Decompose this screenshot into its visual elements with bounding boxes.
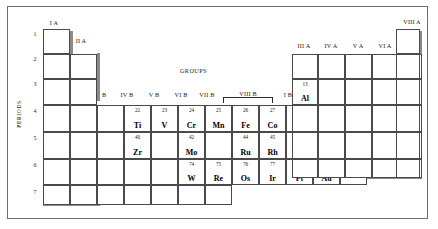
table-cell-ivb-p6[interactable] bbox=[124, 159, 151, 185]
table-cell-ivb-p7[interactable] bbox=[124, 185, 151, 205]
table-cell-iiia-p2[interactable] bbox=[292, 54, 318, 79]
table-cell-ivb-p5[interactable]: 40 Zr bbox=[124, 132, 151, 159]
element-symbol: Ir bbox=[260, 174, 285, 183]
table-cell-iiia-p6[interactable] bbox=[292, 159, 318, 178]
group-label-ia: I A bbox=[41, 19, 67, 26]
table-cell-vib-p6[interactable]: 74 W bbox=[178, 159, 205, 185]
table-cell-viib-p7[interactable] bbox=[205, 185, 232, 205]
group-label-va: V A bbox=[345, 42, 371, 49]
table-cell-viiia-p4[interactable] bbox=[396, 105, 420, 132]
periodic-table-stage: PERIODS GROUPS 1 2 3 4 5 6 7 I A II A II… bbox=[8, 7, 429, 220]
table-cell-iva-p2[interactable] bbox=[318, 54, 345, 79]
viiib-bracket-top bbox=[223, 97, 273, 98]
table-cell-via-p6[interactable] bbox=[372, 159, 398, 178]
period-number-5: 5 bbox=[30, 135, 40, 142]
element-number: 22 bbox=[125, 107, 150, 113]
table-cell-vb-p5[interactable] bbox=[151, 132, 178, 159]
element-number: 45 bbox=[260, 134, 285, 140]
table-cell-viiib2-p6[interactable]: 77 Ir bbox=[259, 159, 286, 185]
element-symbol: Rh bbox=[260, 148, 285, 157]
table-cell-ia-p3[interactable] bbox=[43, 79, 70, 105]
table-cell-viiib2-p4[interactable]: 27 Co bbox=[259, 105, 286, 132]
table-cell-iiia-p3[interactable]: 13 Al bbox=[292, 79, 318, 105]
table-cell-iva-p5[interactable] bbox=[318, 132, 345, 159]
table-cell-iva-p6[interactable] bbox=[318, 159, 345, 178]
table-cell-va-p5[interactable] bbox=[345, 132, 372, 159]
table-cell-viib-p6[interactable]: 75 Re bbox=[205, 159, 232, 185]
element-symbol: Cr bbox=[179, 121, 204, 130]
viiib-bracket-right-tick bbox=[272, 97, 273, 103]
table-cell-va-p3[interactable] bbox=[345, 79, 372, 105]
table-cell-iiib-p4[interactable] bbox=[97, 105, 124, 132]
table-cell-via-p5[interactable] bbox=[372, 132, 398, 159]
group-label-vib: VI B bbox=[168, 91, 194, 98]
table-cell-viiib1-p5[interactable]: 44 Ru bbox=[232, 132, 259, 159]
period-number-4: 4 bbox=[30, 108, 40, 115]
table-cell-ia-p2[interactable] bbox=[43, 54, 70, 79]
table-cell-iiib-p6[interactable] bbox=[97, 159, 124, 185]
element-symbol: Zr bbox=[125, 148, 150, 157]
element-symbol: Ru bbox=[233, 148, 258, 157]
group-label-viiia: VIII A bbox=[399, 18, 425, 25]
element-symbol: Mo bbox=[179, 148, 204, 157]
table-cell-ia-p5[interactable] bbox=[43, 132, 70, 159]
element-number: 76 bbox=[233, 161, 258, 167]
table-cell-viib-p4[interactable]: 25 Mn bbox=[205, 105, 232, 132]
table-cell-iia-p5[interactable] bbox=[70, 132, 97, 159]
element-symbol: Al bbox=[293, 94, 317, 103]
table-cell-iia-p2[interactable] bbox=[70, 54, 97, 79]
element-symbol: Fe bbox=[233, 121, 258, 130]
table-cell-iva-p4[interactable] bbox=[318, 105, 345, 132]
groups-axis-label: GROUPS bbox=[180, 67, 207, 74]
table-cell-iia-p6[interactable] bbox=[70, 159, 97, 185]
table-cell-iia-p3[interactable] bbox=[70, 79, 97, 105]
table-cell-viiia-p2[interactable] bbox=[396, 54, 420, 79]
table-cell-iiia-p5[interactable] bbox=[292, 132, 318, 159]
table-cell-viiib1-p6[interactable]: 76 Os bbox=[232, 159, 259, 185]
table-cell-ia-p6[interactable] bbox=[43, 159, 70, 185]
table-cell-viiib1-p4[interactable]: 26 Fe bbox=[232, 105, 259, 132]
table-cell-viiia-p6[interactable] bbox=[396, 159, 420, 178]
table-cell-vib-p7[interactable] bbox=[178, 185, 205, 205]
table-cell-vib-p5[interactable]: 42 Mo bbox=[178, 132, 205, 159]
table-cell-vib-p4[interactable]: 24 Cr bbox=[178, 105, 205, 132]
table-cell-ia-p1[interactable] bbox=[43, 29, 70, 54]
table-cell-iiib-p7[interactable] bbox=[97, 185, 124, 205]
table-cell-iva-p3[interactable] bbox=[318, 79, 345, 105]
table-cell-viiia-p3[interactable] bbox=[396, 79, 420, 105]
table-cell-viiia-p5[interactable] bbox=[396, 132, 420, 159]
element-number: 13 bbox=[293, 81, 317, 87]
table-cell-iia-p4[interactable] bbox=[70, 105, 97, 132]
table-cell-va-p6[interactable] bbox=[345, 159, 372, 178]
period-number-7: 7 bbox=[30, 189, 40, 196]
group-label-vb: V B bbox=[141, 91, 167, 98]
table-cell-ia-p7[interactable] bbox=[43, 185, 70, 205]
table-cell-iiia-p4[interactable] bbox=[292, 105, 318, 132]
table-cell-via-p3[interactable] bbox=[372, 79, 398, 105]
group-label-iiia: III A bbox=[291, 42, 317, 49]
table-cell-vb-p7[interactable] bbox=[151, 185, 178, 205]
element-number: 24 bbox=[179, 107, 204, 113]
table-cell-via-p4[interactable] bbox=[372, 105, 398, 132]
table-cell-iia-p7[interactable] bbox=[70, 185, 97, 205]
element-number: 26 bbox=[233, 107, 258, 113]
table-cell-vb-p6[interactable] bbox=[151, 159, 178, 185]
group-label-viiib: VIII B bbox=[235, 90, 261, 97]
element-number: 27 bbox=[260, 107, 285, 113]
group-label-iva: IV A bbox=[318, 42, 344, 49]
table-cell-iiib-p5[interactable] bbox=[97, 132, 124, 159]
element-number: 75 bbox=[206, 161, 231, 167]
table-cell-viib-p5[interactable] bbox=[205, 132, 232, 159]
table-cell-via-p2[interactable] bbox=[372, 54, 398, 79]
table-cell-viiia-p1[interactable] bbox=[396, 29, 420, 54]
table-cell-ia-p4[interactable] bbox=[43, 105, 70, 132]
table-cell-va-p2[interactable] bbox=[345, 54, 372, 79]
element-number: 23 bbox=[152, 107, 177, 113]
table-cell-viiib2-p5[interactable]: 45 Rh bbox=[259, 132, 286, 159]
table-cell-vb-p4[interactable]: 23 V bbox=[151, 105, 178, 132]
table-cell-va-p4[interactable] bbox=[345, 105, 372, 132]
table-cell-ivb-p4[interactable]: 22 Ti bbox=[124, 105, 151, 132]
group-label-via: VI A bbox=[372, 42, 398, 49]
element-number: 42 bbox=[179, 134, 204, 140]
element-symbol: W bbox=[179, 174, 204, 183]
